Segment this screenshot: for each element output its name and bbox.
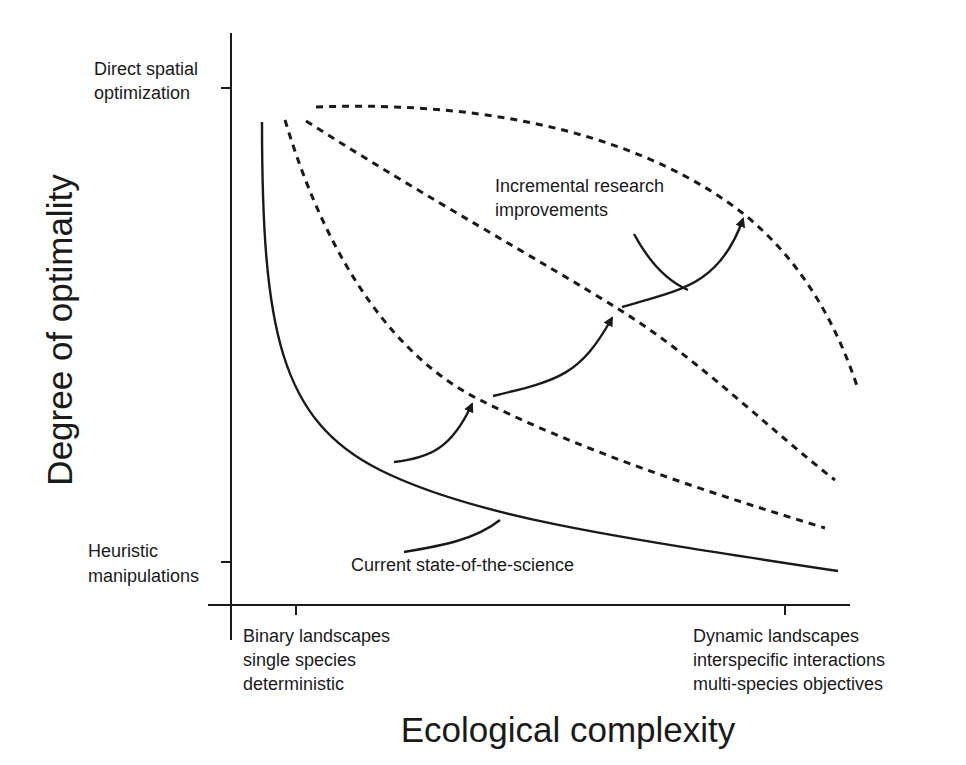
x-axis-label: Ecological complexity <box>401 710 736 749</box>
y-axis-label: Degree of optimality <box>40 174 79 486</box>
conceptual-chart: Degree of optimality Direct spatial opti… <box>0 0 966 765</box>
improvement-arrow-3 <box>622 219 743 307</box>
x-tick-label-low-line1: Binary landscapes <box>243 626 390 646</box>
annotation-incremental-line2: improvements <box>495 200 608 220</box>
x-tick-label-high-line1: Dynamic landscapes <box>693 626 859 646</box>
frontier-3-curve <box>316 106 857 386</box>
y-tick-label-low-line1: Heuristic <box>88 541 158 561</box>
y-tick-label-high-line2: optimization <box>94 83 190 103</box>
x-tick-label-low-line3: deterministic <box>243 674 344 694</box>
incremental-leader-line <box>634 234 688 290</box>
improvement-arrow-1 <box>394 404 472 462</box>
annotation-current-state: Current state-of-the-science <box>351 555 574 575</box>
x-tick-label-high-line2: interspecific interactions <box>693 650 885 670</box>
y-tick-label-low-line2: manipulations <box>88 566 199 586</box>
x-tick-label-high-line3: multi-species objectives <box>693 674 883 694</box>
frontier-2-curve <box>306 121 835 480</box>
current-leader-line <box>404 520 500 552</box>
annotation-incremental-line1: Incremental research <box>495 176 664 196</box>
x-tick-label-low-line2: single species <box>243 650 356 670</box>
y-tick-label-high-line1: Direct spatial <box>94 59 198 79</box>
improvement-arrow-2 <box>493 318 612 396</box>
